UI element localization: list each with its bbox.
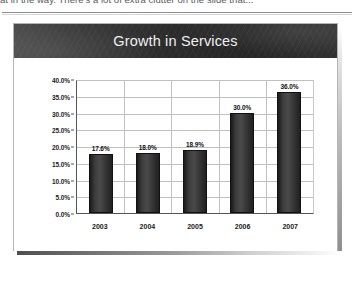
bar-slot: 17.6% [77, 81, 124, 213]
x-axis-tick-label: 2006 [235, 223, 251, 230]
plot-area: 17.6%18.0%18.9%30.0%36.0% [76, 80, 314, 214]
y-axis-tick-label: 10.0% [52, 177, 70, 184]
bar-series: 17.6%18.0%18.9%30.0%36.0% [77, 81, 313, 213]
y-axis-tick-label: 0.0% [56, 211, 70, 218]
page-body-text: at in the way. There's a lot of extra cl… [0, 0, 354, 8]
bar[interactable] [89, 154, 113, 213]
horizontal-divider [2, 12, 352, 13]
y-axis-tick-label: 40.0% [52, 77, 70, 84]
slide-drop-shadow-right [338, 27, 342, 251]
y-axis-tick-label: 20.0% [52, 144, 70, 151]
y-axis-tick-label: 35.0% [52, 93, 70, 100]
chart-container: 0.0%5.0%10.0%15.0%20.0%25.0%30.0%35.0%40… [14, 58, 337, 252]
y-axis-tick-mark [71, 197, 74, 198]
y-axis-tick-mark [71, 113, 74, 114]
bar[interactable] [183, 150, 207, 213]
x-axis-tick-label: 2004 [140, 223, 156, 230]
bar-slot: 30.0% [219, 81, 266, 213]
slide: Growth in Services 0.0%5.0%10.0%15.0%20.… [13, 23, 338, 251]
bar[interactable] [136, 153, 160, 213]
x-axis-tick-label: 2005 [187, 223, 203, 230]
bar-value-label: 18.9% [186, 141, 204, 148]
x-axis: 20032004200520062007 [76, 217, 314, 235]
horizontal-divider-highlight [2, 14, 352, 15]
y-axis-tick-label: 15.0% [52, 160, 70, 167]
y-axis-tick-mark [71, 96, 74, 97]
slide-title: Growth in Services [14, 24, 337, 58]
bar[interactable] [277, 92, 301, 213]
y-axis-tick-mark [71, 147, 74, 148]
y-axis-tick-mark [71, 80, 74, 81]
bar-value-label: 17.6% [92, 145, 110, 152]
bar-value-label: 36.0% [280, 83, 298, 90]
bar-slot: 18.0% [124, 81, 171, 213]
x-axis-tick-label: 2007 [282, 223, 298, 230]
y-axis-tick-label: 25.0% [52, 127, 70, 134]
y-axis-tick-mark [71, 214, 74, 215]
y-axis-tick-label: 30.0% [52, 110, 70, 117]
slide-drop-shadow-bottom [17, 251, 342, 255]
page-body-text-line: at in the way. There's a lot of extra cl… [0, 0, 354, 6]
bar-chart: 0.0%5.0%10.0%15.0%20.0%25.0%30.0%35.0%40… [38, 80, 314, 238]
bar[interactable] [230, 113, 254, 214]
y-axis-tick-mark [71, 180, 74, 181]
y-axis-tick-mark [71, 163, 74, 164]
bar-slot: 36.0% [266, 81, 313, 213]
x-axis-tick-label: 2003 [92, 223, 108, 230]
bar-value-label: 18.0% [139, 144, 157, 151]
bar-value-label: 30.0% [233, 104, 251, 111]
bar-slot: 18.9% [171, 81, 218, 213]
y-axis: 0.0%5.0%10.0%15.0%20.0%25.0%30.0%35.0%40… [38, 80, 74, 214]
y-axis-tick-mark [71, 130, 74, 131]
y-axis-tick-label: 5.0% [56, 194, 70, 201]
